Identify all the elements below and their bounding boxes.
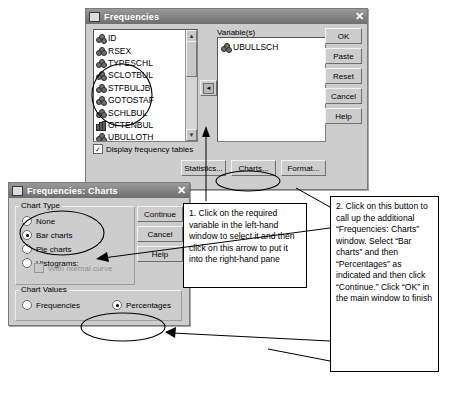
window-icon	[12, 186, 23, 196]
cluster-icon	[96, 84, 105, 92]
chart-type-none[interactable]: None	[22, 216, 79, 226]
move-variable-button[interactable]: ◄	[200, 80, 217, 96]
charts-titlebar: Frequencies: Charts ✕	[9, 183, 189, 198]
frequencies-titlebar: Frequencies ✕	[86, 9, 367, 24]
continue-button[interactable]: Continue	[137, 206, 183, 222]
close-icon[interactable]: ✕	[353, 11, 365, 23]
charts-body: Chart Type NoneBar chartsPie chartsHisto…	[9, 198, 189, 325]
list-item[interactable]: STFBULJB	[96, 82, 197, 94]
leader-line-2d	[268, 349, 330, 361]
display-frequency-tables-label: Display frequency tables	[106, 145, 193, 154]
list-item[interactable]: UBULLOTH	[96, 131, 197, 142]
radio-label: Bar charts	[36, 231, 72, 240]
frequencies-button-column: OKPasteResetCancelHelp	[325, 28, 362, 128]
scroll-down-icon[interactable]: ▼	[186, 129, 197, 141]
format-button[interactable]: Format...	[281, 160, 326, 176]
arrowhead-2b	[165, 327, 176, 338]
help-button[interactable]: Help	[137, 246, 183, 262]
radio-icon	[22, 258, 32, 268]
selected-variable-list[interactable]: UBULLSCH	[217, 37, 326, 142]
callout-1: 1. Click on the required variable in the…	[183, 203, 307, 288]
display-frequency-tables-checkbox[interactable]: ✓ Display frequency tables	[93, 144, 193, 154]
variable-name: TYPESCHL	[108, 58, 153, 68]
radio-label: Frequencies	[36, 301, 80, 310]
checkbox-icon	[34, 263, 44, 273]
frequencies-bottom-buttons: Statistics...Charts...Format...	[181, 160, 326, 176]
list-item[interactable]: UBULLSCH	[218, 38, 325, 53]
list-item[interactable]: TYPESCHL	[96, 57, 197, 69]
list-item[interactable]: SCHLBUL	[96, 106, 197, 118]
leader-line-2b	[172, 333, 330, 341]
radio-icon	[22, 300, 32, 310]
charts-button-column: ContinueCancelHelp	[137, 206, 183, 266]
frequencies-title: Frequencies	[104, 12, 353, 22]
variable-name: SCHLBUL	[108, 108, 147, 118]
cluster-icon	[96, 109, 105, 117]
cancel-button[interactable]: Cancel	[325, 88, 362, 104]
variable-name: UBULLOTH	[108, 132, 153, 142]
chart-type-label: Chart Type	[19, 201, 62, 210]
variables-label: Variable(s)	[217, 28, 255, 37]
list-item[interactable]: GOTOSTAF	[96, 94, 197, 106]
ok-button[interactable]: OK	[325, 28, 362, 44]
cluster-icon	[96, 34, 105, 42]
chart-type-bar-charts[interactable]: Bar charts	[22, 230, 79, 240]
cancel-button[interactable]: Cancel	[137, 226, 183, 242]
variable-name: GOTOSTAF	[108, 95, 154, 105]
scrollbar-thumb[interactable]	[186, 41, 197, 77]
frequencies-window: Frequencies ✕ IDRSEXTYPESCHLSCLOTBULSTFB…	[85, 8, 368, 190]
list-item[interactable]: ID	[96, 32, 197, 44]
paste-button[interactable]: Paste	[325, 48, 362, 64]
radio-icon	[22, 216, 32, 226]
window-icon	[89, 12, 100, 22]
cluster-icon	[96, 133, 105, 141]
list-item[interactable]: SCLOTBUL	[96, 69, 197, 81]
variable-name: UBULLSCH	[233, 42, 278, 52]
cluster-icon	[96, 71, 105, 79]
cluster-icon	[96, 59, 105, 67]
variable-name: SCLOTBUL	[108, 70, 153, 80]
cluster-icon	[221, 43, 230, 51]
checkbox-icon: ✓	[93, 144, 103, 154]
list-item[interactable]: OFTENBUL	[96, 119, 197, 131]
source-variable-list[interactable]: IDRSEXTYPESCHLSCLOTBULSTFBULJBGOTOSTAFSC…	[93, 29, 198, 142]
variable-name: ID	[108, 33, 117, 43]
bar-icon	[96, 121, 105, 129]
radio-label: Pie charts	[36, 245, 72, 254]
chart-type-pie-charts[interactable]: Pie charts	[22, 244, 79, 254]
variable-name: OFTENBUL	[108, 120, 153, 130]
close-icon[interactable]: ✕	[175, 185, 187, 197]
help-button[interactable]: Help	[325, 108, 362, 124]
callout-2: 2. Click on this button to call up the a…	[330, 196, 439, 372]
statistics-button[interactable]: Statistics...	[181, 160, 226, 176]
list-item[interactable]: RSEX	[96, 44, 197, 56]
chart-values-label: Chart Values	[19, 285, 69, 294]
with-normal-curve-label: With normal curve	[48, 264, 112, 273]
radio-label: None	[36, 217, 55, 226]
reset-button[interactable]: Reset	[325, 68, 362, 84]
charts-window: Frequencies: Charts ✕ Chart Type NoneBar…	[8, 182, 190, 326]
radio-icon	[112, 300, 122, 310]
frequencies-body: IDRSEXTYPESCHLSCLOTBULSTFBULJBGOTOSTAFSC…	[86, 24, 367, 189]
radio-label: Percentages	[126, 301, 171, 310]
variable-name: STFBULJB	[108, 83, 151, 93]
radio-icon	[22, 230, 32, 240]
source-list-scrollbar[interactable]: ▲ ▼	[185, 30, 197, 141]
radio-icon	[22, 244, 32, 254]
arrow-left-icon: ◄	[203, 83, 214, 94]
chart-value-frequencies[interactable]: Frequencies	[22, 300, 80, 310]
chart-value-percentages[interactable]: Percentages	[112, 300, 171, 310]
cluster-icon	[96, 96, 105, 104]
variable-name: RSEX	[108, 46, 131, 56]
with-normal-curve-checkbox: With normal curve	[34, 263, 112, 273]
charts-button[interactable]: Charts...	[231, 160, 276, 176]
cluster-icon	[96, 47, 105, 55]
charts-title: Frequencies: Charts	[27, 186, 175, 196]
